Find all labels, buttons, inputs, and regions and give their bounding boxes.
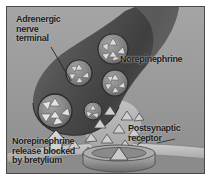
vesicle: [84, 102, 102, 120]
postsynaptic-receptor: [83, 145, 155, 172]
figure-frame: Adrenergic nerve terminal Norepinephrine…: [6, 6, 205, 174]
label-norepinephrine: Norepinephrine: [120, 55, 182, 65]
label-postsynaptic-receptor: Postsynaptic receptor: [128, 124, 180, 143]
vesicle: [66, 60, 92, 86]
vesicle: [102, 70, 128, 96]
label-release-blocked-by-bretylium: Norepinephrine release blocked by bretyl…: [12, 137, 75, 166]
label-adrenergic-nerve-terminal: Adrenergic nerve terminal: [16, 15, 61, 44]
vesicle: [38, 94, 72, 128]
